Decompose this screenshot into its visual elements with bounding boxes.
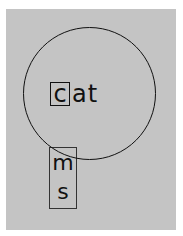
word-display: c at: [50, 80, 98, 108]
word-rest: at: [72, 80, 98, 108]
tile-letter-s[interactable]: s: [52, 180, 74, 204]
boxed-letter-slot[interactable]: c: [50, 82, 70, 106]
